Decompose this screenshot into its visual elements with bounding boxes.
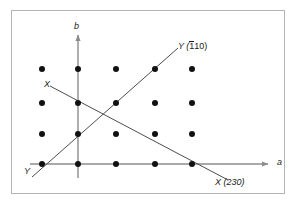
- trace-y-far-rest: 10): [194, 41, 207, 51]
- trace-y-far-prefix: Y (: [178, 41, 189, 51]
- miller-index-overbar-digit: 1: [189, 42, 194, 51]
- lattice-dot: [152, 131, 158, 137]
- lattice-dot: [152, 66, 158, 72]
- lattice-dot: [39, 131, 45, 137]
- lattice-dot: [152, 161, 158, 167]
- figure-root: b a X Y Y (110) X (230): [0, 0, 295, 209]
- trace-x-near-label: X: [44, 80, 50, 89]
- lattice-dot: [39, 161, 45, 167]
- lattice-dot: [75, 131, 81, 137]
- lattice-dot: [75, 161, 81, 167]
- lattice-dot: [189, 131, 195, 137]
- lattice-dot: [113, 100, 119, 106]
- trace-y-near-label: Y: [24, 167, 30, 176]
- lattice-diagram-svg: [0, 0, 295, 209]
- lattice-dot: [113, 66, 119, 72]
- lattice-dot: [189, 66, 195, 72]
- lattice-dot: [113, 161, 119, 167]
- trace-x-far-label: X (230): [215, 178, 245, 187]
- lattice-dot: [39, 66, 45, 72]
- lattice-dot-grid: [39, 66, 195, 167]
- lattice-dot: [75, 66, 81, 72]
- axis-a-label: a: [277, 158, 282, 167]
- lattice-dot: [152, 100, 158, 106]
- lattice-dot: [189, 100, 195, 106]
- lattice-dot: [113, 131, 119, 137]
- lattice-dot: [75, 100, 81, 106]
- lattice-dot: [189, 161, 195, 167]
- axis-b-label: b: [74, 22, 79, 31]
- lattice-dot: [39, 100, 45, 106]
- trace-y-far-label: Y (110): [178, 42, 207, 51]
